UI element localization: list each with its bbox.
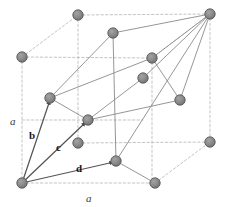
vector-d bbox=[22, 162, 114, 183]
cube-left-to-mid-right bbox=[22, 57, 152, 58]
atom-corner-top-far-right bbox=[205, 9, 215, 19]
cell-upperleft-down bbox=[113, 33, 116, 161]
atom-face-center-upper-left bbox=[108, 28, 118, 38]
atom-face-center-mid-right bbox=[138, 73, 148, 83]
cube-back-top-to-far-top bbox=[78, 14, 210, 15]
cell-midright-to-top bbox=[180, 14, 210, 100]
atom-face-center-lower-right bbox=[175, 95, 185, 105]
cube-bottom-front-to-right bbox=[155, 142, 210, 183]
cell-d-to-bottomfront bbox=[116, 161, 155, 183]
atom-face-center-left bbox=[45, 93, 55, 103]
cell-inner-link-2 bbox=[143, 14, 210, 78]
atom-corner-right-mid bbox=[205, 137, 215, 147]
axis-label-a-left: a bbox=[10, 116, 16, 127]
cell-core-down bbox=[152, 58, 180, 100]
atom-corner-top-back-mid bbox=[73, 10, 83, 20]
cell-b-to-core bbox=[50, 58, 152, 98]
atom-corner-back-top-left bbox=[17, 52, 27, 62]
vector-b bbox=[22, 100, 50, 183]
atom-face-center-inner bbox=[73, 138, 83, 148]
axis-label-a-bottom: a bbox=[86, 193, 92, 204]
atom-face-center-upper-right bbox=[147, 53, 157, 63]
cell-core-to-top bbox=[152, 14, 210, 58]
atom-corner-back-bottom-left bbox=[17, 178, 27, 188]
atom-face-center-bottom bbox=[111, 156, 121, 166]
atom-face-center-core bbox=[83, 115, 93, 125]
vector-label-d: d bbox=[76, 163, 82, 174]
vector-label-b: b bbox=[29, 130, 35, 141]
primitive-cell-edges bbox=[50, 14, 210, 183]
figure-canvas: bcdaa bbox=[0, 0, 227, 207]
cell-b-to-upper-left bbox=[50, 33, 113, 98]
vector-label-c: c bbox=[56, 142, 61, 153]
cube-left-to-back-top bbox=[22, 15, 78, 57]
cube-mid-horizontal-right bbox=[78, 142, 210, 143]
cell-upper-left-to-top bbox=[113, 14, 210, 33]
lattice-figure bbox=[0, 0, 227, 207]
cell-left-drop bbox=[50, 98, 88, 120]
basis-vectors bbox=[22, 100, 114, 183]
atom-corner-bottom-front-mid bbox=[150, 178, 160, 188]
